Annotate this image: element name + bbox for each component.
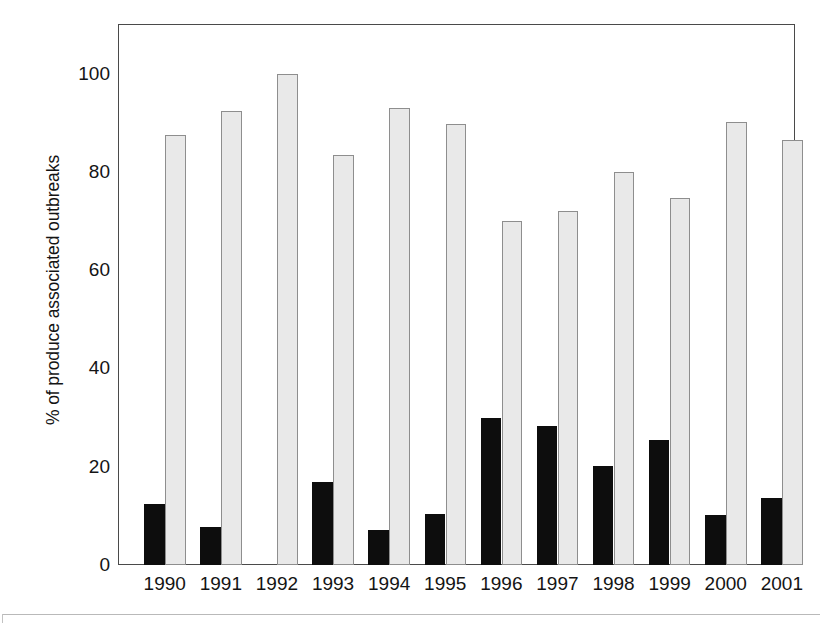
x-tick-label-1991: 1991 [193,572,249,596]
bar-dark-1993 [312,482,333,565]
bar-light-1995 [446,124,467,565]
bar-dark-1994 [368,530,389,565]
bar-light-1999 [670,198,691,565]
bar-light-2000 [726,122,747,565]
bar-chart-figure: % of produce associated outbreaks 020406… [0,0,822,625]
bar-light-1992 [277,74,298,566]
y-tick-label-0: 0 [64,555,110,574]
x-tick-label-1993: 1993 [305,572,361,596]
x-tick-label-1994: 1994 [361,572,417,596]
bar-light-2001 [782,140,803,565]
x-tick-label-1995: 1995 [417,572,473,596]
caption-box-left-tick [2,614,3,623]
bar-light-1994 [389,108,410,565]
bar-dark-1991 [200,527,221,565]
x-tick-label-1997: 1997 [529,572,585,596]
caption-box-top-rule [2,614,820,615]
bar-dark-1996 [481,418,502,565]
x-tick-label-1998: 1998 [586,572,642,596]
bar-light-1991 [221,111,242,565]
x-axis-tick-labels: 1990199119921993199419951996199719981999… [118,572,795,598]
bar-dark-1997 [537,426,558,565]
x-tick-label-1999: 1999 [642,572,698,596]
bar-dark-1999 [649,440,670,565]
bar-light-1996 [502,221,523,565]
x-tick-label-2001: 2001 [754,572,810,596]
y-tick-label-100: 100 [64,64,110,83]
bar-dark-1990 [144,504,165,565]
x-tick-label-1990: 1990 [137,572,193,596]
y-tick-label-60: 60 [64,260,110,279]
bar-dark-2001 [761,498,782,565]
bar-dark-1995 [425,514,446,565]
bar-dark-2000 [705,515,726,565]
y-tick-label-20: 20 [64,457,110,476]
y-tick-label-40: 40 [64,358,110,377]
x-tick-label-1992: 1992 [249,572,305,596]
y-tick-label-80: 80 [64,162,110,181]
bars-layer [118,24,795,565]
bar-light-1998 [614,172,635,565]
x-tick-label-1996: 1996 [473,572,529,596]
y-axis-tick-labels: 020406080100 [58,0,110,625]
bar-light-1997 [558,211,579,565]
bar-light-1990 [165,135,186,565]
x-tick-label-2000: 2000 [698,572,754,596]
bar-light-1993 [333,155,354,565]
bar-dark-1998 [593,466,614,565]
